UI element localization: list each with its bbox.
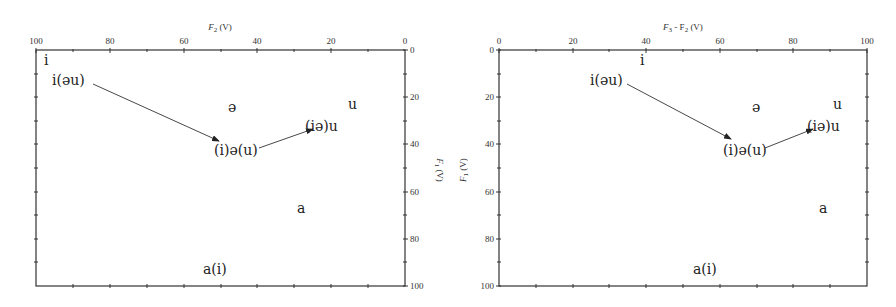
left-plot-frame <box>36 50 405 286</box>
svg-text:60: 60 <box>180 36 190 46</box>
left-x-axis-title: F2 (V) <box>207 22 232 34</box>
right-label-i-au: i(əu) <box>590 72 623 88</box>
right-label-schwa: ə <box>752 99 760 115</box>
right-chart: 0 20 40 60 80 100 0 20 40 60 80 100 F3 -… <box>458 22 874 291</box>
svg-text:20: 20 <box>569 36 579 46</box>
svg-text:80: 80 <box>789 36 799 46</box>
svg-text:40: 40 <box>485 139 495 149</box>
svg-text:100: 100 <box>860 36 874 46</box>
left-label-ia-u: (iə)u <box>305 118 338 134</box>
right-plot-frame <box>499 50 867 286</box>
svg-text:100: 100 <box>410 281 424 291</box>
right-arrow-iau-to-iau2 <box>765 129 813 148</box>
left-x-ticks <box>34 48 408 288</box>
svg-text:40: 40 <box>253 36 263 46</box>
svg-text:60: 60 <box>410 187 420 197</box>
right-y-axis-title: F1 (V) <box>458 158 470 183</box>
left-label-a-i: a(i) <box>203 261 227 277</box>
svg-text:60: 60 <box>716 36 726 46</box>
right-label-i-a-u: (i)ə(u) <box>723 142 767 158</box>
left-label-i-a-u: (i)ə(u) <box>214 142 258 158</box>
svg-text:40: 40 <box>410 139 420 149</box>
left-y-tick-labels: 0 20 40 60 80 100 <box>410 45 424 291</box>
left-label-u: u <box>348 96 357 112</box>
left-label-i: i <box>44 52 49 68</box>
svg-text:0: 0 <box>490 45 495 55</box>
left-x-tick-labels: 100 80 60 40 20 0 <box>29 36 408 46</box>
right-x-axis-title: F3 - F2 (V) <box>662 22 703 34</box>
svg-text:0: 0 <box>410 45 415 55</box>
right-label-u: u <box>833 96 842 112</box>
left-label-i-au: i(əu) <box>52 72 85 88</box>
figure: 100 80 60 40 20 0 0 20 40 60 80 100 F2 (… <box>0 0 896 307</box>
svg-text:80: 80 <box>485 234 495 244</box>
left-label-schwa: ə <box>228 99 236 115</box>
right-label-ia-u: (iə)u <box>807 118 840 134</box>
right-label-a: a <box>819 200 827 216</box>
svg-text:80: 80 <box>410 234 420 244</box>
left-arrow-iau-to-iau <box>93 84 219 141</box>
left-chart: 100 80 60 40 20 0 0 20 40 60 80 100 F2 (… <box>29 22 445 291</box>
svg-text:40: 40 <box>642 36 652 46</box>
svg-text:20: 20 <box>410 92 420 102</box>
right-x-tick-labels: 0 20 40 60 80 100 <box>497 36 875 46</box>
svg-text:0: 0 <box>497 36 502 46</box>
right-label-i: i <box>640 52 645 68</box>
svg-text:100: 100 <box>29 36 43 46</box>
right-arrow-iau-to-iau <box>627 84 731 139</box>
svg-text:100: 100 <box>481 281 495 291</box>
right-y-tick-labels: 0 20 40 60 80 100 <box>481 45 495 291</box>
svg-text:80: 80 <box>106 36 116 46</box>
svg-text:20: 20 <box>327 36 337 46</box>
left-label-a: a <box>297 200 305 216</box>
right-ticks <box>496 48 869 288</box>
left-y-axis-title: F1 (V) <box>433 157 445 182</box>
svg-text:0: 0 <box>403 36 408 46</box>
right-label-a-i: a(i) <box>693 261 717 277</box>
svg-text:60: 60 <box>485 187 495 197</box>
svg-text:20: 20 <box>485 92 495 102</box>
